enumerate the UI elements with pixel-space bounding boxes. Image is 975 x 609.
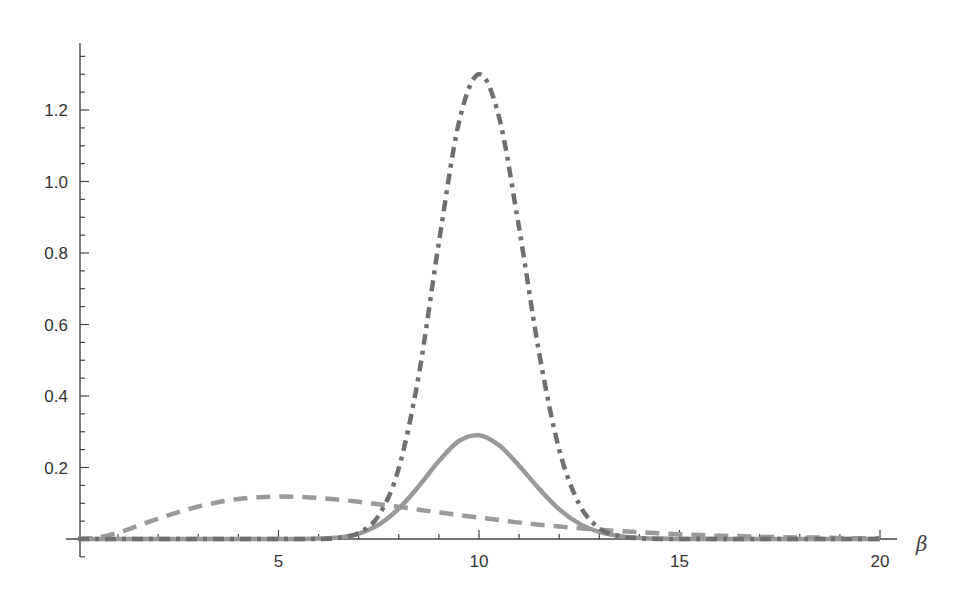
y-tick-label: 0.6 [44, 316, 68, 335]
x-tick-label: 10 [470, 552, 489, 571]
y-tick-label: 0.2 [44, 459, 68, 478]
x-tick-label: 5 [274, 552, 283, 571]
y-ticks: 0.20.40.60.81.01.2 [44, 56, 89, 557]
series-dot-dashed [78, 74, 880, 539]
y-tick-label: 0.4 [44, 387, 68, 406]
chart-canvas: 5101520 0.20.40.60.81.01.2 β [0, 0, 975, 609]
x-axis-label: β [915, 532, 928, 556]
axes: 5101520 0.20.40.60.81.01.2 β [44, 43, 927, 571]
series-solid [78, 435, 880, 539]
y-tick-label: 1.2 [44, 101, 68, 120]
x-tick-label: 20 [871, 552, 890, 571]
y-tick-label: 0.8 [44, 244, 68, 263]
x-tick-label: 15 [670, 552, 689, 571]
series-layer [78, 74, 880, 539]
y-tick-label: 1.0 [44, 173, 68, 192]
